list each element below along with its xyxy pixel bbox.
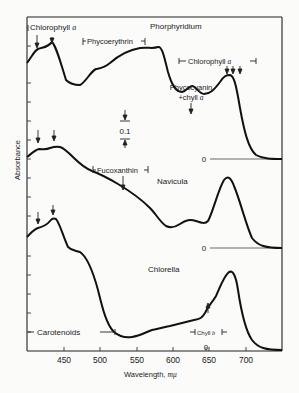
arrow-down-icon bbox=[52, 136, 56, 141]
navicula-curve bbox=[27, 147, 282, 248]
navicula-label: Navicula bbox=[157, 177, 188, 186]
arrow-up-icon bbox=[123, 140, 127, 145]
porphyridium-zero-label: 0 bbox=[202, 155, 207, 164]
x-tick-500: 500 bbox=[93, 355, 107, 365]
arrow-up-icon bbox=[206, 303, 210, 308]
porphyridium-label: Phorphyridium bbox=[150, 22, 202, 31]
carotenoids-label: Carotenoids bbox=[37, 328, 80, 337]
arrow-down-icon bbox=[238, 69, 242, 74]
x-tick-650: 650 bbox=[202, 355, 216, 365]
arrow-down-icon bbox=[121, 185, 125, 190]
phycocyanin-chyll-a-label: +chyll a bbox=[178, 93, 203, 102]
x-tick-600: 600 bbox=[166, 355, 180, 365]
axes-frame bbox=[27, 17, 282, 351]
y-axis-title: Absorbance bbox=[13, 140, 22, 180]
chyll-b-label: Chyll b bbox=[197, 330, 215, 336]
porphyridium-curve bbox=[27, 42, 282, 159]
navicula-annotations bbox=[36, 130, 148, 190]
x-axis-title: Wavelength, mμ bbox=[124, 370, 177, 379]
x-tick-700: 700 bbox=[239, 355, 253, 365]
phycocyanin-label: Phycocyanin bbox=[170, 83, 213, 92]
chlorella-annotations bbox=[28, 205, 227, 335]
fucoxanthin-label: Fucoxanthin bbox=[97, 166, 138, 175]
arrow-down-icon bbox=[231, 69, 235, 74]
chlorophyll-a-label-left: Chlorophyll a bbox=[30, 23, 76, 32]
arrow-down-icon bbox=[36, 219, 40, 224]
scale-bar-label: 0.1 bbox=[119, 127, 131, 136]
arrow-down-icon bbox=[123, 115, 127, 120]
arrow-down-icon bbox=[36, 138, 40, 143]
arrow-down-icon bbox=[189, 109, 193, 114]
x-tick-450: 450 bbox=[57, 355, 71, 365]
zero-baselines bbox=[210, 159, 282, 248]
navicula-zero-label: 0 bbox=[202, 244, 207, 253]
arrow-down-icon bbox=[51, 210, 55, 215]
y-ticks bbox=[27, 46, 31, 332]
arrow-down-icon bbox=[35, 43, 39, 48]
arrow-down-icon bbox=[225, 69, 229, 74]
absorption-spectra-chart: 450 500 550 600 650 700 Wavelength, mμ A… bbox=[0, 0, 299, 393]
chlorella-label: Chlorella bbox=[148, 265, 180, 274]
phycoerythrin-label: Phycoerythrin bbox=[87, 37, 133, 46]
x-ticks bbox=[64, 347, 246, 351]
chlorophyll-a-label-right: Chlorophyll a bbox=[188, 57, 232, 66]
x-tick-550: 550 bbox=[130, 355, 144, 365]
